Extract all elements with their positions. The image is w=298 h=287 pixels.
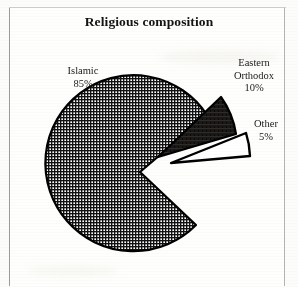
slice-label-eastern-orthodox-line1: Eastern: [218, 57, 290, 70]
slice-label-islamic: Islamic 85%: [46, 65, 120, 90]
slice-label-other: Other 5%: [243, 118, 289, 143]
pie-slice-islamic: [45, 75, 207, 251]
slice-label-other-name: Other: [243, 118, 289, 131]
slice-label-islamic-value: 85%: [46, 78, 120, 91]
slice-label-other-value: 5%: [243, 131, 289, 144]
slice-label-eastern-orthodox-value: 10%: [218, 82, 290, 95]
slice-label-eastern-orthodox-line2: Orthodox: [218, 70, 290, 83]
pie-chart: Religious composition: [0, 0, 298, 287]
slice-label-islamic-name: Islamic: [46, 65, 120, 78]
slice-label-eastern-orthodox: Eastern Orthodox 10%: [218, 57, 290, 95]
scanned-page: Religious composition: [0, 0, 298, 287]
pie-graphic: [0, 0, 298, 287]
